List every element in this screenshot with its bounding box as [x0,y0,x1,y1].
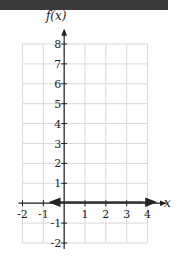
exponential-graph: -2-11234-2-112345678f(x)x [0,0,180,267]
x-tick-label: 1 [82,208,89,221]
x-tick-label: 3 [123,208,130,221]
y-tick-label: 7 [54,58,61,71]
x-tick-label: -1 [38,208,49,221]
x-axis-label: x [164,196,171,210]
y-axis-label: f(x) [45,9,67,23]
y-tick-label: 5 [54,98,61,111]
y-tick-label: 4 [54,118,61,131]
x-tick-label: 2 [102,208,109,221]
y-tick-label: -2 [50,237,61,250]
y-tick-label: 1 [54,177,61,190]
y-tick-label: -1 [50,217,61,230]
function-curve [51,202,153,203]
y-tick-label: 3 [54,138,61,151]
x-tick-label: 4 [144,208,151,221]
x-tick-label: -2 [17,208,28,221]
y-tick-label: 2 [54,157,61,170]
y-tick-label: 6 [54,78,61,91]
y-tick-label: 8 [54,38,61,51]
